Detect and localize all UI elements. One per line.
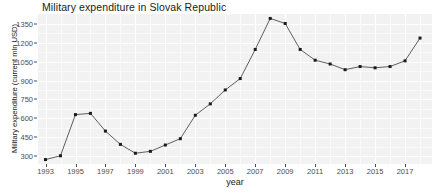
y-tick-mark xyxy=(34,137,37,138)
data-series-line xyxy=(38,14,432,164)
x-tick-label: 2017 xyxy=(397,167,414,176)
data-point xyxy=(89,112,92,115)
plot-panel xyxy=(38,14,432,164)
data-point xyxy=(119,143,122,146)
x-tick-mark xyxy=(165,164,166,167)
data-point xyxy=(209,102,212,105)
data-point xyxy=(164,144,167,147)
chart-title: Military expenditure in Slovak Republic xyxy=(42,1,226,13)
x-tick-label: 1997 xyxy=(97,167,114,176)
x-tick-mark xyxy=(135,164,136,167)
data-point xyxy=(419,37,422,40)
x-tick-mark xyxy=(375,164,376,167)
y-tick-mark xyxy=(34,80,37,81)
data-point xyxy=(104,130,107,133)
data-point xyxy=(59,154,62,157)
series-polyline xyxy=(45,18,420,159)
data-point xyxy=(254,48,257,51)
data-point xyxy=(359,65,362,68)
data-point xyxy=(224,88,227,91)
series-markers xyxy=(44,17,422,161)
y-tick-label: 600 xyxy=(20,114,33,123)
y-tick-label: 1200 xyxy=(16,38,33,47)
y-tick-label: 1050 xyxy=(16,57,33,66)
data-point xyxy=(344,68,347,71)
y-tick-mark xyxy=(34,118,37,119)
y-axis-ticks: 300450600750900105012001350 xyxy=(0,14,33,164)
y-tick-label: 450 xyxy=(20,133,33,142)
x-tick-label: 2003 xyxy=(187,167,204,176)
data-point xyxy=(374,66,377,69)
x-tick-mark xyxy=(76,164,77,167)
x-tick-mark xyxy=(345,164,346,167)
data-point xyxy=(269,17,272,20)
data-point xyxy=(74,113,77,116)
x-tick-mark xyxy=(195,164,196,167)
data-point xyxy=(404,59,407,62)
x-tick-mark xyxy=(46,164,47,167)
data-point xyxy=(314,59,317,62)
x-tick-label: 2015 xyxy=(367,167,384,176)
x-tick-label: 2005 xyxy=(217,167,234,176)
y-tick-mark xyxy=(34,156,37,157)
x-tick-label: 2007 xyxy=(247,167,264,176)
x-axis-title: year xyxy=(36,177,434,187)
data-point xyxy=(194,114,197,117)
x-axis-ticks: 1993199519971999200120032005200720092011… xyxy=(38,164,432,178)
data-point xyxy=(44,158,47,161)
x-tick-mark xyxy=(405,164,406,167)
x-tick-label: 2011 xyxy=(307,167,323,176)
data-point xyxy=(179,137,182,140)
y-tick-label: 300 xyxy=(20,152,33,161)
x-tick-mark xyxy=(105,164,106,167)
x-tick-label: 1993 xyxy=(37,167,54,176)
data-point xyxy=(149,150,152,153)
x-tick-label: 1995 xyxy=(67,167,84,176)
x-tick-label: 2009 xyxy=(277,167,294,176)
x-tick-mark xyxy=(315,164,316,167)
data-point xyxy=(329,63,332,66)
y-tick-mark xyxy=(34,23,37,24)
y-tick-label: 1350 xyxy=(16,19,33,28)
data-point xyxy=(134,152,137,155)
x-tick-mark xyxy=(285,164,286,167)
chart-container: Military expenditure in Slovak Republic … xyxy=(0,0,434,196)
data-point xyxy=(299,48,302,51)
x-tick-mark xyxy=(255,164,256,167)
x-tick-mark xyxy=(225,164,226,167)
data-point xyxy=(284,22,287,25)
x-tick-label: 2013 xyxy=(337,167,354,176)
y-tick-mark xyxy=(34,61,37,62)
data-point xyxy=(239,77,242,80)
y-tick-mark xyxy=(34,99,37,100)
x-tick-label: 1999 xyxy=(127,167,144,176)
y-tick-label: 750 xyxy=(20,95,33,104)
data-point xyxy=(389,65,392,68)
y-tick-label: 900 xyxy=(20,76,33,85)
x-tick-label: 2001 xyxy=(157,167,174,176)
y-tick-mark xyxy=(34,42,37,43)
